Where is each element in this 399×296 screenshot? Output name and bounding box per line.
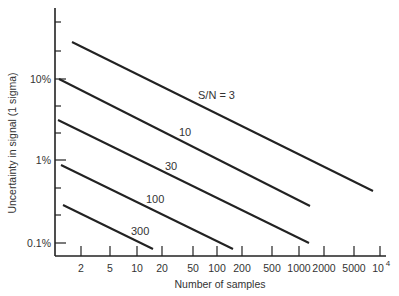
svg-text:10: 10 bbox=[179, 126, 191, 138]
svg-text:200: 200 bbox=[233, 262, 251, 274]
svg-text:30: 30 bbox=[165, 160, 177, 172]
line-sn-3 bbox=[72, 42, 373, 191]
svg-text:2: 2 bbox=[78, 262, 84, 274]
svg-text:0.1%: 0.1% bbox=[27, 237, 51, 249]
svg-text:10: 10 bbox=[131, 262, 143, 274]
svg-text:100: 100 bbox=[146, 193, 164, 205]
svg-text:5: 5 bbox=[107, 262, 113, 274]
svg-text:10: 10 bbox=[372, 262, 384, 274]
svg-text:10%: 10% bbox=[30, 73, 51, 85]
x-axis-title: Number of samples bbox=[174, 278, 265, 290]
svg-text:50: 50 bbox=[187, 262, 199, 274]
data-lines bbox=[58, 42, 373, 249]
svg-text:1%: 1% bbox=[36, 154, 51, 166]
y-axis-title: Uncertainty in signal (1 sigma) bbox=[6, 72, 18, 213]
y-minor-ticks bbox=[55, 22, 61, 215]
svg-text:300: 300 bbox=[131, 225, 149, 237]
svg-text:2000: 2000 bbox=[312, 262, 336, 274]
svg-text:4: 4 bbox=[386, 259, 391, 268]
svg-text:1000: 1000 bbox=[287, 262, 311, 274]
svg-text:20: 20 bbox=[156, 262, 168, 274]
svg-text:5000: 5000 bbox=[342, 262, 366, 274]
svg-text:100: 100 bbox=[208, 262, 226, 274]
y-major-ticks bbox=[55, 79, 66, 243]
svg-text:500: 500 bbox=[263, 262, 281, 274]
svg-text:S/N = 3: S/N = 3 bbox=[198, 89, 235, 101]
x-tick-labels: 2 5 10 20 50 100 200 500 1000 2000 5000 … bbox=[78, 259, 391, 274]
chart: 2 5 10 20 50 100 200 500 1000 2000 5000 … bbox=[0, 0, 399, 296]
y-tick-labels: 10% 1% 0.1% bbox=[27, 73, 51, 249]
